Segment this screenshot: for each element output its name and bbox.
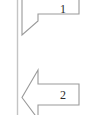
- callout-label-1: 1: [55, 3, 71, 15]
- vector-graphics-layer: [0, 0, 94, 115]
- callout-label-2: 2: [55, 89, 71, 101]
- callout-arrows-canvas: 1 2: [0, 0, 94, 115]
